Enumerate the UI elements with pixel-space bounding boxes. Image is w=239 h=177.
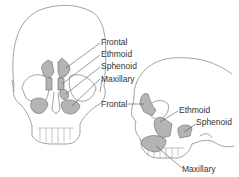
label-side-maxillary: Maxillary [182, 165, 216, 174]
front-sphenoid [60, 89, 69, 99]
label-front-ethmoid: Ethmoid [101, 50, 132, 59]
label-side-ethmoid: Ethmoid [179, 106, 210, 115]
label-side-sphenoid: Sphenoid [196, 118, 232, 127]
label-front-maxillary: Maxillary [101, 75, 135, 84]
front-ethmoid-left [46, 78, 52, 90]
label-front-frontal: Frontal [101, 38, 127, 47]
front-frontal-sinus-left [42, 60, 54, 78]
side-maxillary-sinus [142, 136, 166, 153]
label-front-sphenoid: Sphenoid [101, 62, 137, 71]
front-maxillary-left [31, 98, 48, 114]
front-frontal-sinus-right [58, 58, 70, 78]
label-side-frontal: Frontal [101, 100, 127, 109]
front-ethmoid-right [58, 78, 64, 90]
front-maxillary-right [61, 100, 80, 114]
side-frontal-sinus [140, 93, 156, 116]
sinus-diagram [0, 0, 239, 177]
